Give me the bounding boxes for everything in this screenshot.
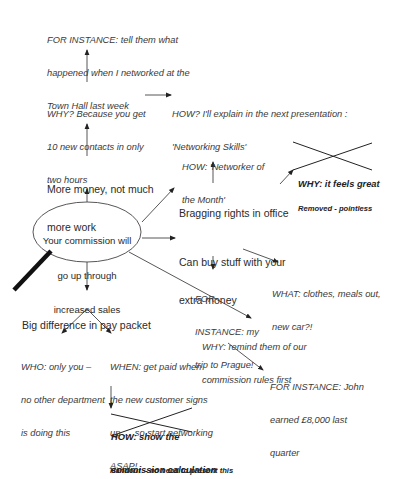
text-line: WHEN: get paid when [110,362,213,373]
text-line: Bragging rights in office [179,207,289,220]
text-line: go up through [33,270,141,282]
text-line: HOW: show the [111,432,216,443]
text-line: WHO: only you – [21,362,105,373]
text-line: FOR INSTANCE: John [270,382,364,393]
for-instance-john-node: FOR INSTANCE: John earned £8,000 last qu… [270,360,364,479]
text-line: WHY? Because you get [47,109,146,120]
text-line: 10 new contacts in only [47,142,146,153]
text-line: quarter [270,448,364,459]
text-line: earned £8,000 last [270,415,364,426]
removed-pointless-note: Removed - pointless [298,181,372,236]
text-line: Can buy stuff with your [179,256,286,269]
text-line: Removed - pointless [298,203,372,214]
text-line: FOR INSTANCE: tell them what [47,35,190,46]
text-line: is doing this [21,428,105,439]
text-line: WHAT: clothes, meals out, [272,289,381,300]
text-line: no other department [21,395,105,406]
text-line: WHY: remind them of our [202,342,307,353]
text-line: happened when I networked at the [47,68,190,79]
text-line: More money, not much [47,183,154,196]
text-line: Handout - no need to present this [110,465,233,476]
who-node: WHO: only you – no other department is d… [21,340,105,461]
text-line: the new customer signs [110,395,213,406]
text-line: HOW: 'Networker of [182,162,264,173]
text-line: FOR [195,294,259,305]
handout-note: Handout - no need to present this [110,443,233,479]
text-line: Your commission will [33,235,141,247]
text-line: Big difference in pay packet [22,319,151,332]
text-line: HOW? I'll explain in the next presentati… [172,109,347,120]
